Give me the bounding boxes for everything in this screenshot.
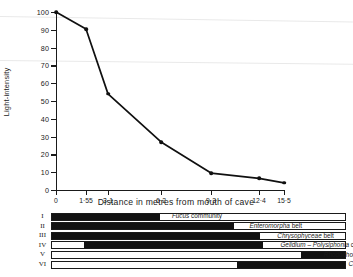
y-tick-label: 90 (41, 25, 49, 34)
species-name: Fucus (172, 212, 189, 219)
y-tick-label: 50 (41, 97, 49, 106)
zonation-row: IIEnteromorpha belt (36, 222, 346, 231)
x-axis-line (56, 190, 284, 191)
zonation-row: VIChroococcus calcicola community (36, 260, 346, 269)
data-point-marker (209, 171, 213, 175)
zonation-row: IFucus community (36, 212, 346, 221)
x-tick-mark (108, 190, 109, 195)
x-tick-mark (211, 190, 212, 195)
zonation-row-label: Rhodochorton rothii community (324, 250, 353, 260)
x-tick-mark (161, 190, 162, 195)
zonation-row: IVGelidium – Polysiphonia community (36, 241, 346, 250)
y-tick-label: 30 (41, 132, 49, 141)
y-tick-label: 80 (41, 43, 49, 52)
zonation-bar-fill (52, 223, 234, 229)
zonation-row-label: Chroococcus calcicola community (349, 259, 353, 269)
zonation-row: VRhodochorton rothii community (36, 250, 346, 259)
data-point-marker (106, 92, 110, 96)
x-tick-mark (259, 190, 260, 195)
data-series-line (56, 12, 284, 190)
figure-root: 0102030405060708090100 01·553·16·29·312·… (0, 0, 353, 277)
data-point-marker (257, 177, 261, 181)
y-tick-label: 100 (37, 8, 49, 17)
zonation-bar-fill (52, 233, 260, 239)
species-name: Rhodochorton rothii (324, 251, 353, 258)
zonation-row-label: Chrysophyceae belt (277, 231, 334, 241)
y-tick-label: 20 (41, 150, 49, 159)
y-tick-label: 40 (41, 114, 49, 123)
y-tick-label: 10 (41, 168, 49, 177)
zonation-bar-track (51, 251, 346, 259)
zonation-row-label: Gelidium – Polysiphonia community (280, 240, 353, 250)
y-axis-label: Light-intensity (2, 68, 11, 117)
x-tick-mark (86, 190, 87, 195)
zonation-legend: IFucus communityIIEnteromorpha beltIIICh… (36, 212, 346, 272)
plot-area: 0102030405060708090100 01·553·16·29·312·… (56, 12, 284, 190)
data-point-marker (84, 27, 88, 31)
y-tick-label: 0 (45, 186, 49, 195)
zonation-row-numeral: IV (36, 241, 49, 250)
data-point-marker (54, 10, 58, 14)
x-tick-mark (284, 190, 285, 195)
y-tick-label: 60 (41, 79, 49, 88)
species-name: Chroococcus calcicola (349, 260, 353, 267)
zonation-row-numeral: II (36, 222, 49, 231)
species-name: Enteromorpha (249, 222, 290, 229)
zonation-bar-track (51, 261, 346, 269)
zonation-row-numeral: VI (36, 260, 49, 269)
x-tick-mark (56, 190, 57, 195)
zonation-bar-fill (52, 214, 160, 220)
zonation-bar-fill (84, 242, 263, 248)
zonation-row-numeral: V (36, 250, 49, 259)
zonation-row-numeral: III (36, 231, 49, 240)
species-name: Gelidium – Polysiphonia (280, 241, 349, 248)
zonation-bar-fill (237, 262, 345, 268)
zonation-row: IIIChrysophyceae belt (36, 231, 346, 240)
zonation-row-label: Fucus community (172, 211, 222, 221)
data-point-marker (159, 140, 163, 144)
data-point-marker (282, 181, 286, 185)
zonation-row-numeral: I (36, 212, 49, 221)
x-axis-label: Distance in metres from mouth of cave (56, 197, 296, 207)
zonation-row-label: Enteromorpha belt (249, 221, 302, 231)
species-name: Chrysophyceae (277, 232, 321, 239)
y-tick-label: 70 (41, 61, 49, 70)
